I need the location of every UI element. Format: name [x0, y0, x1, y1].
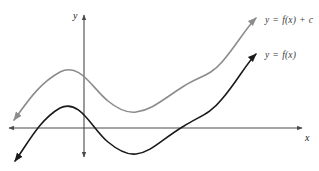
- function-translation-figure: y x y = f(x) + c y = f(x): [0, 0, 319, 171]
- x-axis-label: x: [305, 133, 309, 143]
- label-base-fx: f(x): [282, 50, 296, 60]
- curve-label-f-of-x: y = f(x): [265, 51, 296, 61]
- curve-label-f-of-x-plus-c: y = f(x) + c: [265, 16, 313, 26]
- y-axis-label: y: [73, 11, 77, 21]
- curve-f-of-x: [15, 54, 256, 161]
- label-shifted-lhs: y: [265, 15, 269, 25]
- label-base-lhs: y: [265, 50, 269, 60]
- label-shifted-plus: +: [299, 15, 307, 25]
- label-shifted-fx: f(x): [282, 15, 296, 25]
- label-shifted-constant: c: [309, 15, 313, 25]
- curve-f-of-x-plus-c: [14, 18, 256, 120]
- plot-canvas: [0, 0, 319, 171]
- label-shifted-equals: =: [272, 15, 280, 25]
- label-base-equals: =: [272, 50, 280, 60]
